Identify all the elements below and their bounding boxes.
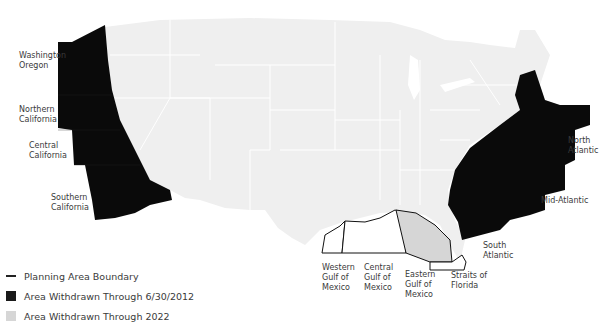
- legend-label: Planning Area Boundary: [24, 271, 139, 282]
- legend-item-withdrawn-2022: Area Withdrawn Through 2022: [6, 306, 194, 326]
- light-swatch-icon: [6, 311, 16, 321]
- label-south-atlantic: South Atlantic: [483, 241, 513, 261]
- label-straits-florida: Straits of Florida: [451, 271, 487, 291]
- legend-item-boundary: Planning Area Boundary: [6, 266, 194, 286]
- label-eastern-gulf: Eastern Gulf of Mexico: [405, 270, 435, 300]
- legend-item-withdrawn-2012: Area Withdrawn Through 6/30/2012: [6, 286, 194, 306]
- label-southern-california: Southern California: [51, 193, 89, 213]
- label-north-atlantic: North Atlantic: [568, 136, 598, 156]
- legend-label: Area Withdrawn Through 6/30/2012: [24, 291, 194, 302]
- dark-swatch-icon: [6, 291, 16, 301]
- label-mid-atlantic: Mid-Atlantic: [541, 196, 588, 206]
- label-northern-california: Northern California: [19, 105, 57, 125]
- label-western-gulf: Western Gulf of Mexico: [322, 263, 355, 293]
- label-washington-oregon: Washington Oregon: [19, 51, 66, 71]
- map-legend: Planning Area Boundary Area Withdrawn Th…: [6, 266, 194, 326]
- label-central-california: Central California: [29, 141, 67, 161]
- boundary-line-icon: [6, 275, 16, 277]
- legend-label: Area Withdrawn Through 2022: [24, 311, 170, 322]
- label-central-gulf: Central Gulf of Mexico: [364, 263, 393, 293]
